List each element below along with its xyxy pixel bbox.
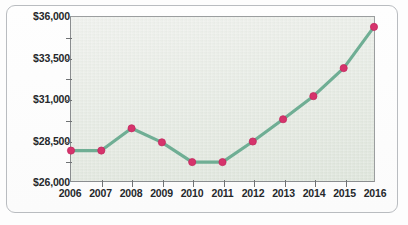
x-axis-tick <box>224 180 225 187</box>
x-axis-tick-label: 2010 <box>181 187 204 199</box>
y-axis-tick-label: $28,500 <box>33 135 70 147</box>
data-point-2006 <box>67 147 74 154</box>
chart-figure: $26,000$28,500$31,000$33,500$36,000 2006… <box>0 0 408 225</box>
x-axis-tick-label: 2011 <box>212 187 234 199</box>
data-point-2013 <box>280 116 287 123</box>
data-point-2009 <box>158 139 165 146</box>
y-axis-tick-minor <box>66 79 72 80</box>
y-axis-tick-label: $33,500 <box>33 52 70 64</box>
x-axis-tick-label: 2009 <box>150 187 173 199</box>
x-axis-tick <box>102 180 103 187</box>
data-point-2007 <box>98 147 105 154</box>
x-axis-tick-label: 2012 <box>242 187 265 199</box>
data-point-2014 <box>310 93 317 100</box>
x-axis-tick-label: 2014 <box>303 187 326 199</box>
x-axis-tick <box>193 180 194 187</box>
y-axis-tick-major <box>65 59 72 60</box>
x-axis-tick <box>132 180 133 187</box>
y-axis-tick-major <box>65 100 72 101</box>
data-point-2012 <box>249 138 256 145</box>
y-axis-tick-major <box>65 142 72 143</box>
y-axis-tick-label: $31,000 <box>33 93 70 105</box>
x-axis-tick-label: 2015 <box>333 187 356 199</box>
data-point-markers <box>67 23 377 165</box>
y-axis-tick-minor <box>66 162 72 163</box>
line-series-path <box>71 27 374 162</box>
x-axis-tick <box>346 180 347 187</box>
data-point-2010 <box>189 159 196 166</box>
x-axis-tick-label: 2007 <box>89 187 112 199</box>
x-axis-tick-label: 2006 <box>59 187 82 199</box>
x-axis-tick-label: 2008 <box>120 187 143 199</box>
x-axis-tick-label: 2016 <box>364 187 387 199</box>
series-layer <box>71 17 374 182</box>
y-axis-tick-label: $36,000 <box>33 10 70 22</box>
x-axis-tick <box>285 180 286 187</box>
x-axis-tick <box>254 180 255 187</box>
x-axis-tick <box>163 180 164 187</box>
x-axis-tick-label: 2013 <box>272 187 295 199</box>
x-axis-labels: 2006200720082009201020112012201320142015… <box>70 187 375 203</box>
data-point-2011 <box>219 159 226 166</box>
data-point-2015 <box>340 65 347 72</box>
plot-area <box>70 16 375 182</box>
y-axis-tick-minor <box>66 38 72 39</box>
x-axis-tick <box>315 180 316 187</box>
data-point-2008 <box>128 125 135 132</box>
data-point-2016 <box>370 23 377 30</box>
y-axis-tick-minor <box>66 121 72 122</box>
